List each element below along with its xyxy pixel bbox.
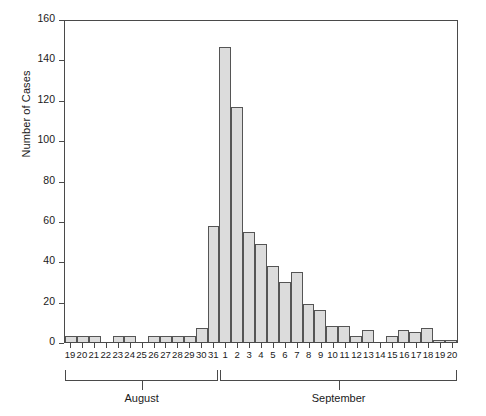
bar-cell [338, 21, 350, 342]
bar-cell [409, 21, 421, 342]
bar-cell [386, 21, 398, 342]
bar-cell [398, 21, 410, 342]
x-tick-label: 30 [195, 348, 207, 362]
bar-cell [148, 21, 160, 342]
group-bracket-label: September [220, 392, 457, 404]
x-tick-label: 19 [434, 348, 446, 362]
group-bracket-stem [339, 381, 340, 390]
x-tick-label: 4 [255, 348, 267, 362]
x-tick-label: 18 [422, 348, 434, 362]
x-tick-label: 20 [446, 348, 458, 362]
bar-cell [124, 21, 136, 342]
bar-cell [65, 21, 77, 342]
x-tick-label: 1 [219, 348, 231, 362]
x-tick-label: 11 [339, 348, 351, 362]
y-tick: 120 [0, 101, 64, 102]
x-tick-label: 8 [303, 348, 315, 362]
x-tick-label: 23 [112, 348, 124, 362]
bar [409, 332, 421, 342]
x-tick-label: 24 [124, 348, 136, 362]
bar-cell [445, 21, 457, 342]
x-tick-label: 20 [76, 348, 88, 362]
x-tick-label: 21 [88, 348, 100, 362]
bar-cell [362, 21, 374, 342]
bar-cell [314, 21, 326, 342]
bar [279, 282, 291, 342]
x-tick-label: 26 [148, 348, 160, 362]
group-bracket [220, 370, 457, 381]
bar [255, 244, 267, 342]
bar-cell [196, 21, 208, 342]
bar-cell [231, 21, 243, 342]
group-bracket-stem [142, 381, 143, 390]
y-tick-label: 40 [43, 254, 55, 266]
bar-cell [184, 21, 196, 342]
y-tick-label: 120 [37, 93, 55, 105]
bar-cell [279, 21, 291, 342]
y-tick-label: 140 [37, 52, 55, 64]
y-tick: 0 [0, 343, 64, 344]
x-tick-label: 12 [351, 348, 363, 362]
bar-cell [421, 21, 433, 342]
plot-area [64, 20, 458, 343]
x-tick-label: 9 [315, 348, 327, 362]
y-tick-label: 0 [49, 335, 55, 347]
epidemic-curve-chart: Number of Cases 020406080100120140160 19… [0, 0, 486, 416]
x-tick-label: 22 [100, 348, 112, 362]
group-bracket-label: August [65, 392, 218, 404]
x-tick-label: 25 [136, 348, 148, 362]
bar [148, 336, 160, 342]
y-tick-label: 20 [43, 295, 55, 307]
bar [89, 336, 101, 342]
bar-cell [160, 21, 172, 342]
bar [338, 326, 350, 342]
y-tick-label: 80 [43, 174, 55, 186]
bar [196, 328, 208, 342]
bar-cell [136, 21, 148, 342]
bar [172, 336, 184, 342]
bar [219, 47, 231, 342]
x-tick-label: 29 [183, 348, 195, 362]
bar-cell [113, 21, 125, 342]
bar-cell [219, 21, 231, 342]
y-tick: 160 [0, 20, 64, 21]
x-tick-label: 17 [410, 348, 422, 362]
bar [184, 336, 196, 342]
bar [65, 336, 77, 342]
bar [421, 328, 433, 342]
bar-cell [267, 21, 279, 342]
bar [243, 232, 255, 342]
bar-cell [243, 21, 255, 342]
x-tick-label: 27 [160, 348, 172, 362]
x-tick-label: 14 [374, 348, 386, 362]
bar [445, 340, 457, 342]
bar [326, 326, 338, 342]
bar [267, 266, 279, 342]
x-tick-label: 10 [327, 348, 339, 362]
x-tick-label: 16 [398, 348, 410, 362]
y-tick-label: 60 [43, 214, 55, 226]
bar-cell [101, 21, 113, 342]
y-tick: 40 [0, 262, 64, 263]
x-axis-tick-labels: 1920212223242526272829303112345678910111… [64, 348, 458, 362]
x-tick-label: 7 [291, 348, 303, 362]
bar [124, 336, 136, 342]
y-tick: 20 [0, 303, 64, 304]
month-group-brackets: AugustSeptember [64, 370, 458, 416]
bar-cell [350, 21, 362, 342]
bar-cell [77, 21, 89, 342]
x-tick-label: 6 [279, 348, 291, 362]
bar-cell [433, 21, 445, 342]
y-tick: 60 [0, 222, 64, 223]
y-tick: 100 [0, 141, 64, 142]
bar-cell [326, 21, 338, 342]
bar [291, 272, 303, 342]
bar [362, 330, 374, 342]
bar [77, 336, 89, 342]
x-tick-label: 15 [386, 348, 398, 362]
bar [113, 336, 125, 342]
x-tick-label: 31 [207, 348, 219, 362]
bar-cell [291, 21, 303, 342]
bar [314, 310, 326, 342]
x-tick-label: 3 [243, 348, 255, 362]
